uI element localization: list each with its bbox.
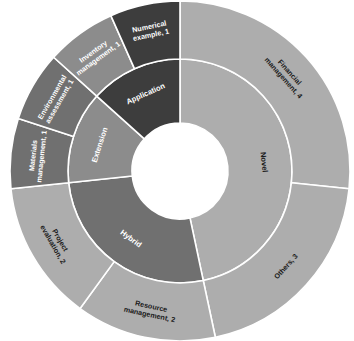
sunburst-svg: NovelHybridExtensionApplication Financia… bbox=[0, 0, 354, 341]
inner-ring-group bbox=[68, 59, 292, 283]
outer-ring-group bbox=[10, 1, 350, 341]
sunburst-chart: NovelHybridExtensionApplication Financia… bbox=[0, 0, 354, 341]
